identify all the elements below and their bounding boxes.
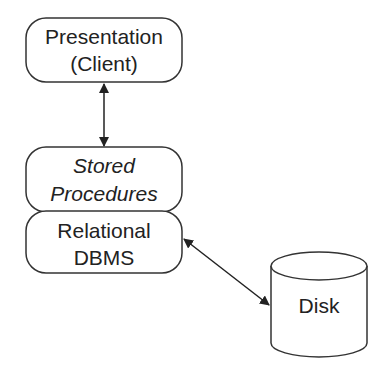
presentation-label-line1: Presentation [45, 25, 163, 48]
presentation-label-line2: (Client) [70, 52, 138, 75]
relational-dbms-label-line1: Relational [57, 219, 150, 242]
stored-procedures-label-line1: Stored [73, 154, 136, 177]
presentation-client-node: Presentation (Client) [26, 18, 182, 82]
relational-dbms-node: Relational DBMS [26, 211, 182, 273]
dbms-disk-arrow [184, 239, 269, 305]
disk-label: Disk [299, 294, 340, 317]
stored-procedures-node: Stored Procedures [26, 147, 182, 212]
relational-dbms-label-line2: DBMS [74, 246, 135, 269]
disk-node: Disk [271, 252, 367, 357]
architecture-diagram: Presentation (Client) Stored Procedures … [0, 0, 377, 368]
stored-procedures-label-line2: Procedures [50, 182, 158, 205]
